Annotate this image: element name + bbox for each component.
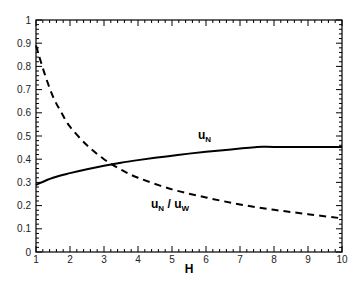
curve-label-un-over-uw: uN / uW bbox=[151, 197, 189, 213]
y-tick-label: 0.5 bbox=[17, 131, 31, 142]
axis-ticks: 1234567891000.10.20.30.40.50.60.70.80.91 bbox=[17, 15, 348, 266]
y-tick-label: 0.1 bbox=[17, 223, 31, 234]
x-tick-label: 5 bbox=[169, 254, 175, 265]
y-tick-label: 0.8 bbox=[17, 61, 31, 72]
y-tick-label: 0.4 bbox=[17, 154, 31, 165]
series-layer bbox=[36, 46, 342, 219]
y-tick-label: 0.2 bbox=[17, 200, 31, 211]
x-tick-label: 4 bbox=[135, 254, 141, 265]
y-tick-label: 0.7 bbox=[17, 84, 31, 95]
x-tick-label: 9 bbox=[305, 254, 311, 265]
y-tick-label: 0 bbox=[25, 247, 31, 258]
curve-label-un: uN bbox=[198, 128, 211, 144]
series-un-line bbox=[36, 147, 342, 185]
y-tick-label: 0.9 bbox=[17, 38, 31, 49]
y-tick-label: 1 bbox=[25, 15, 31, 26]
series-un-over-uw-line bbox=[36, 46, 342, 219]
x-tick-label: 1 bbox=[33, 254, 39, 265]
x-tick-label: 10 bbox=[336, 254, 348, 265]
y-tick-label: 0.6 bbox=[17, 107, 31, 118]
x-tick-label: 8 bbox=[271, 254, 277, 265]
plot-frame bbox=[36, 20, 342, 252]
x-tick-label: 2 bbox=[67, 254, 73, 265]
x-tick-label: 7 bbox=[237, 254, 243, 265]
y-tick-label: 0.3 bbox=[17, 177, 31, 188]
x-tick-label: 3 bbox=[101, 254, 107, 265]
line-chart: 1234567891000.10.20.30.40.50.60.70.80.91… bbox=[0, 0, 363, 287]
x-tick-label: 6 bbox=[203, 254, 209, 265]
x-axis-title: H bbox=[185, 262, 194, 276]
